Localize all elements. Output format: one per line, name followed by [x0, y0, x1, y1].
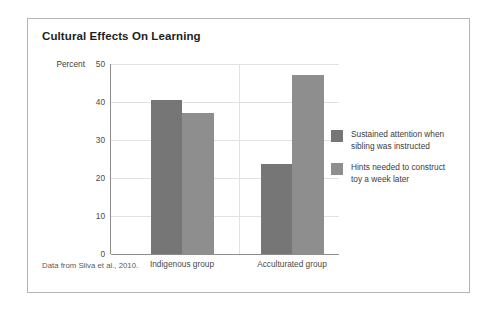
legend-swatch-series2	[331, 163, 343, 175]
x-tick-label-indigenous: Indigenous group	[150, 259, 214, 269]
legend-label-series1-line2: sibling was instructed	[351, 141, 444, 153]
bar-acculturated-series2	[292, 75, 324, 254]
gridline-50: 50	[111, 64, 339, 65]
legend-label-series2-line1: Hints needed to construct	[351, 162, 445, 174]
y-tick-label-50: 50	[96, 59, 105, 69]
y-tick-label-0: 0	[100, 249, 105, 259]
y-axis-line	[110, 64, 111, 254]
x-tick-label-acculturated: Acculturated group	[257, 259, 327, 269]
legend-swatch-series1	[331, 130, 343, 142]
legend-label-series1: Sustained attention when sibling was ins…	[351, 129, 444, 152]
x-axis-baseline: 0	[111, 254, 339, 255]
bar-indigenous-series2	[182, 113, 214, 254]
legend-label-series1-line1: Sustained attention when	[351, 129, 444, 141]
legend-label-series2-line2: toy a week later	[351, 174, 445, 186]
legend-entry-series2: Hints needed to construct toy a week lat…	[331, 162, 466, 185]
legend-label-series2: Hints needed to construct toy a week lat…	[351, 162, 445, 185]
bar-acculturated-series1	[261, 164, 292, 254]
bar-indigenous-series1	[151, 100, 182, 254]
y-tick-label-40: 40	[96, 97, 105, 107]
y-tick-label-30: 30	[96, 135, 105, 145]
plot-area: 50 40 30 20 10 0 Percent Indigenous grou…	[111, 64, 339, 254]
group-divider	[239, 64, 240, 254]
y-tick-label-20: 20	[96, 173, 105, 183]
figure-panel: Cultural Effects On Learning 50 40 30 20…	[27, 18, 470, 293]
page-title: Cultural Effects On Learning	[42, 30, 201, 42]
source-note: Data from Silva et al., 2010.	[42, 261, 138, 270]
y-axis-title: Percent	[56, 59, 85, 69]
legend: Sustained attention when sibling was ins…	[331, 129, 466, 195]
y-tick-label-10: 10	[96, 211, 105, 221]
legend-entry-series1: Sustained attention when sibling was ins…	[331, 129, 466, 152]
